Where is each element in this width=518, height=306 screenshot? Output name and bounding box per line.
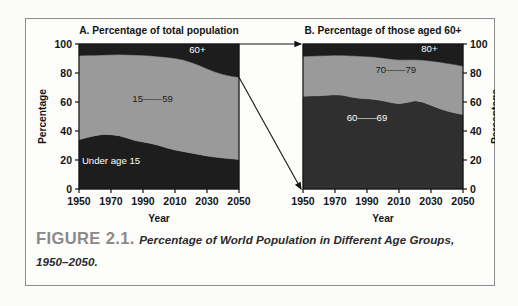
panel-a-xtick-label: 2030 (195, 195, 219, 207)
panel-a-xtick-label: 2050 (227, 195, 251, 207)
panel-b-ytick-label: 0 (470, 183, 476, 195)
panel-a-ytick-label: 40 (60, 125, 72, 137)
panel-b-xaxis-label: Year (372, 213, 394, 223)
panel-a-xtick-label: 1970 (99, 195, 123, 207)
panel-b-xtick-label: 1970 (323, 195, 347, 207)
panel-a-yaxis-label: Percentage (37, 89, 48, 144)
panel-b-band-label-1: 70——79 (376, 64, 417, 75)
panel-b-ytick-label: 60 (470, 96, 482, 108)
panel-a-ytick-label: 60 (60, 96, 72, 108)
panel-b-xtick-label: 2010 (387, 195, 411, 207)
panel-b-xtick-label: 1990 (355, 195, 379, 207)
panel-a-ytick-label: 100 (54, 38, 72, 50)
panel-a-xtick-label: 1990 (131, 195, 155, 207)
panel-b-ytick-label: 80 (470, 67, 482, 79)
panel-b-title: B. Percentage of those aged 60+ (304, 25, 461, 36)
panel-b-yaxis-label: Percentage (490, 89, 495, 144)
charts-area: 195019701990201020302050020406080100A. P… (25, 18, 495, 223)
panel-a-xaxis-label: Year (148, 213, 170, 223)
panel-b-xtick-label: 1950 (291, 195, 315, 207)
panel-b-ytick-label: 20 (470, 154, 482, 166)
panel-a-xtick-label: 1950 (67, 195, 91, 207)
panel-b-ytick-label: 100 (470, 38, 488, 50)
panel-a-title: A. Percentage of total population (79, 25, 239, 36)
panel-b-band-label-0: 80+ (421, 43, 438, 54)
panel-a-ytick-label: 80 (60, 67, 72, 79)
panel-a-ytick-label: 0 (66, 183, 72, 195)
figure-caption: FIGURE 2.1. Percentage of World Populati… (36, 228, 486, 271)
panel-a: 195019701990201020302050020406080100A. P… (37, 25, 251, 223)
panel-a-band-label-0: 60+ (189, 44, 206, 55)
figure-plot-svg: 195019701990201020302050020406080100A. P… (25, 18, 495, 223)
figure-caption-number: FIGURE 2.1. (36, 229, 135, 247)
panel-a-xtick-label: 2010 (163, 195, 187, 207)
panel-a-ytick-label: 20 (60, 154, 72, 166)
panel-b-band-0 (303, 95, 463, 189)
panel-b-xtick-label: 2050 (451, 195, 475, 207)
panel-connectors (239, 44, 301, 189)
panel-b: 195019701990201020302050020406080100B. P… (291, 25, 495, 223)
panel-a-band-label-2: Under age 15 (82, 155, 140, 166)
connector-diagonal-arrow (239, 77, 301, 189)
panel-b-ytick-label: 40 (470, 125, 482, 137)
panel-b-band-label-2: 60——69 (347, 112, 388, 123)
panel-a-band-label-1: 15——59 (132, 93, 173, 104)
figure-page: 195019701990201020302050020406080100A. P… (0, 0, 518, 306)
panel-b-xtick-label: 2030 (419, 195, 443, 207)
